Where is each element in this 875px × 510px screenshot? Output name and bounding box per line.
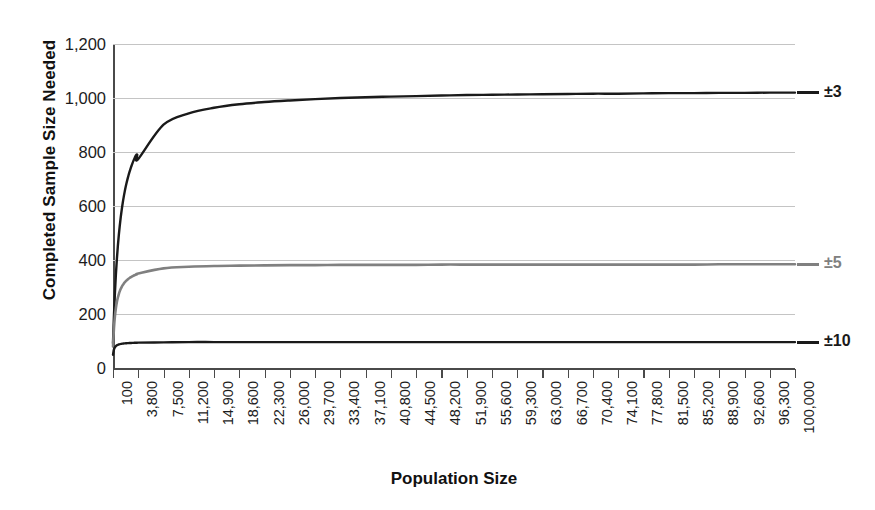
x-tick-20 xyxy=(618,369,619,378)
x-tick-label-5: 18,600 xyxy=(245,381,261,425)
x-tick-label-12: 44,500 xyxy=(422,381,438,425)
x-tick-label-4: 14,900 xyxy=(220,381,236,425)
x-tick-label-2: 7,500 xyxy=(170,381,186,417)
series-line-pm10 xyxy=(113,342,795,355)
chart-container: Completed Sample Size Needed 02004006008… xyxy=(0,0,875,510)
y-tick-label-600: 600 xyxy=(40,197,106,216)
x-tick-1 xyxy=(138,369,139,378)
x-tick-16 xyxy=(517,369,518,378)
x-tick-label-8: 29,700 xyxy=(321,381,337,425)
x-tick-label-19: 70,400 xyxy=(599,381,615,425)
x-tick-22 xyxy=(669,369,670,378)
plot-area xyxy=(113,44,795,368)
x-tick-label-17: 63,000 xyxy=(548,381,564,425)
x-tick-0 xyxy=(113,369,114,378)
x-tick-7 xyxy=(290,369,291,378)
x-tick-12 xyxy=(416,369,417,378)
x-tick-label-23: 85,200 xyxy=(700,381,716,425)
x-tick-label-7: 26,000 xyxy=(296,381,312,425)
x-axis-ticks xyxy=(113,369,795,379)
x-tick-label-26: 96,300 xyxy=(776,381,792,425)
x-tick-10 xyxy=(366,369,367,378)
x-tick-label-13: 48,200 xyxy=(447,381,463,425)
x-tick-label-15: 55,600 xyxy=(498,381,514,425)
series-swatch-pm10 xyxy=(797,341,819,344)
series-lines xyxy=(113,44,795,368)
x-axis-title: Population Size xyxy=(113,469,795,489)
x-tick-15 xyxy=(492,369,493,378)
x-tick-25 xyxy=(745,369,746,378)
x-tick-label-20: 74,100 xyxy=(624,381,640,425)
y-tick-label-200: 200 xyxy=(40,305,106,324)
x-tick-label-27: 100,000 xyxy=(801,381,817,433)
y-axis-tick-labels: 02004006008001,0001,200 xyxy=(40,0,106,510)
x-tick-label-22: 81,500 xyxy=(675,381,691,425)
x-tick-label-11: 40,800 xyxy=(397,381,413,425)
x-tick-label-18: 66,700 xyxy=(574,381,590,425)
x-tick-label-9: 33,400 xyxy=(346,381,362,425)
x-tick-11 xyxy=(391,369,392,378)
x-tick-23 xyxy=(694,369,695,378)
x-tick-19 xyxy=(593,369,594,378)
x-tick-8 xyxy=(315,369,316,378)
series-swatch-pm5 xyxy=(797,263,819,266)
x-tick-label-24: 88,900 xyxy=(725,381,741,425)
x-tick-3 xyxy=(189,369,190,378)
x-tick-label-3: 11,200 xyxy=(195,381,211,424)
x-tick-label-10: 37,100 xyxy=(372,381,388,425)
x-tick-2 xyxy=(164,369,165,378)
x-tick-6 xyxy=(265,369,266,378)
x-tick-9 xyxy=(340,369,341,378)
x-tick-26 xyxy=(770,369,771,378)
y-tick-label-0: 0 xyxy=(40,359,106,378)
y-tick-label-1200: 1,200 xyxy=(40,35,106,54)
x-tick-label-0: 100 xyxy=(119,381,135,405)
x-tick-14 xyxy=(467,369,468,378)
y-tick-label-400: 400 xyxy=(40,251,106,270)
x-tick-18 xyxy=(568,369,569,378)
x-axis-tick-labels: 1003,8007,50011,20014,90018,60022,30026,… xyxy=(113,381,795,461)
x-tick-4 xyxy=(214,369,215,378)
x-tick-24 xyxy=(719,369,720,378)
x-tick-label-25: 92,600 xyxy=(751,381,767,425)
x-tick-13 xyxy=(441,369,442,378)
x-tick-21 xyxy=(643,369,644,378)
series-swatch-pm3 xyxy=(797,91,819,94)
x-tick-label-16: 59,300 xyxy=(523,381,539,425)
series-label-pm10: ±10 xyxy=(824,332,851,350)
x-tick-label-21: 77,800 xyxy=(649,381,665,425)
x-tick-label-6: 22,300 xyxy=(271,381,287,425)
series-label-pm3: ±3 xyxy=(824,83,842,101)
x-tick-label-14: 51,900 xyxy=(473,381,489,425)
y-tick-label-800: 800 xyxy=(40,143,106,162)
y-tick-label-1000: 1,000 xyxy=(40,89,106,108)
series-line-pm3 xyxy=(113,93,795,344)
x-tick-label-1: 3,800 xyxy=(144,381,160,417)
x-tick-27 xyxy=(795,369,796,378)
series-line-pm5 xyxy=(113,264,795,346)
x-tick-5 xyxy=(239,369,240,378)
x-tick-17 xyxy=(542,369,543,378)
series-label-pm5: ±5 xyxy=(824,254,842,272)
